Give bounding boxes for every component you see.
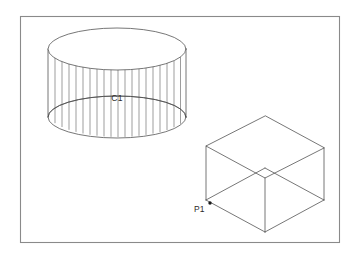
cube-group: P1	[194, 116, 324, 232]
cube-label-p1: P1	[194, 204, 205, 214]
cube-bottom-right-edge	[265, 200, 324, 232]
cube-floor-back-right-edge	[265, 168, 324, 200]
drawing-canvas: C1 P1	[0, 0, 358, 258]
cube-floor-back-left-edge	[206, 168, 265, 200]
cylinder-group: C1	[48, 28, 186, 138]
cube-top-rim	[206, 116, 324, 178]
cube-bottom-left-edge	[206, 200, 265, 232]
cad-drawing-svg: C1 P1	[0, 0, 358, 258]
p1-point-marker	[208, 201, 211, 204]
cylinder-label-c1: C1	[111, 93, 122, 103]
